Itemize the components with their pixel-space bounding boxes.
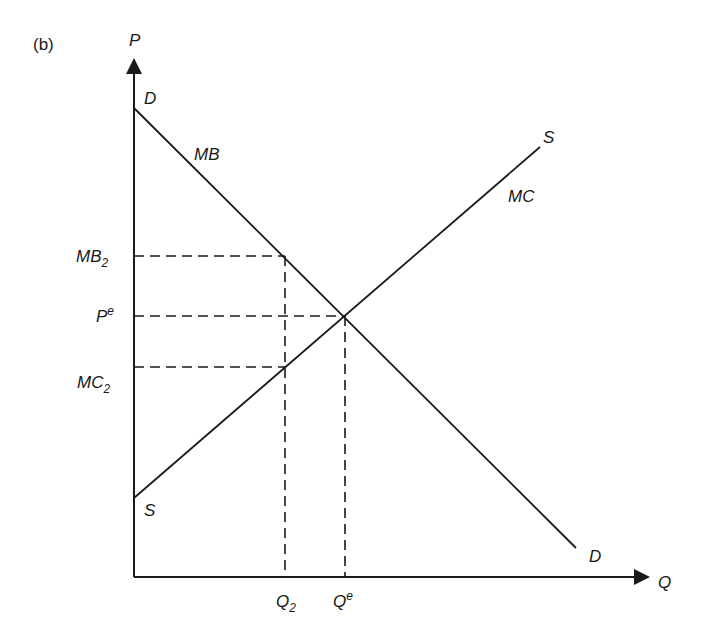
y-tick-mb2: MB2 [76,247,109,270]
mb-curve-label: MB [194,145,220,164]
x-axis-arrow-icon [634,569,650,585]
mc-curve-label: MC [508,187,535,206]
x-tick-q2: Q2 [276,592,296,615]
supply-curve [134,147,540,498]
x-tick-qe: Qe [333,589,353,611]
y-tick-mc2: MC2 [77,373,110,396]
supply-top-label: S [543,128,555,147]
demand-bottom-label: D [589,547,601,566]
guide-lines [134,256,345,577]
x-axis-label: Q [658,573,671,592]
y-axis-arrow-icon [126,58,142,74]
supply-bottom-label: S [144,501,156,520]
panel-label: (b) [33,35,54,54]
market-diagram: (b) P Q D MB D S MC S MB2 Pe MC2 Q2 Qe [0,0,708,638]
demand-top-label: D [144,89,156,108]
y-axis-label: P [129,31,141,50]
y-tick-pe: Pe [96,304,114,326]
